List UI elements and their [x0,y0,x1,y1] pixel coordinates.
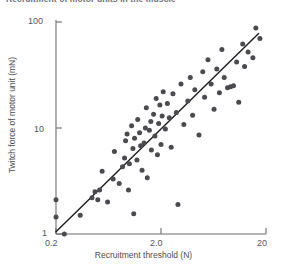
y-tick-label-100: 100 [28,16,43,26]
x-tick-label-2.0: 2.0 [150,238,163,248]
y-tick-label-10: 10 [34,124,44,134]
data-points-group [54,25,263,236]
chart-figure: Recruitment of motor units in the muscle… [0,0,287,268]
axes-group [56,20,266,234]
y-axis-title: Twitch force of motor unit (mN) [7,40,17,190]
x-axis-title: Recruitment threshold (N) [0,250,287,260]
x-tick-label-0.2: 0.2 [45,238,58,248]
x-tick-label-20: 20 [257,238,267,248]
y-tick-label-1: 1 [42,228,47,238]
regression-line [56,33,259,231]
